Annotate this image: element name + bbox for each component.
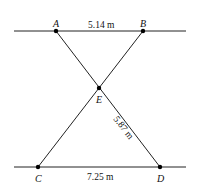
point-E <box>97 86 101 90</box>
geometry-diagram: A B E C D 5.14 m 7.25 m 5.87 m <box>0 0 200 187</box>
segment-BC <box>38 31 143 167</box>
segment-AD <box>56 31 160 167</box>
point-D <box>158 165 162 169</box>
label-C: C <box>35 173 42 184</box>
label-D: D <box>156 173 165 184</box>
label-E: E <box>95 94 102 105</box>
label-A: A <box>52 18 60 29</box>
label-B: B <box>140 18 146 29</box>
measure-ED: 5.87 m <box>111 114 136 141</box>
point-A <box>54 29 58 33</box>
point-B <box>141 29 145 33</box>
measure-AB: 5.14 m <box>88 20 115 30</box>
point-C <box>36 165 40 169</box>
measure-CD: 7.25 m <box>87 172 114 182</box>
